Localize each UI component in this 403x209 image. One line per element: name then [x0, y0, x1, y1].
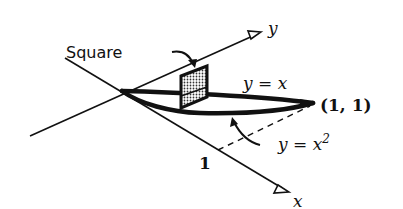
parabola-pointer-arrow [234, 122, 260, 145]
y-axis-label: y [267, 18, 278, 38]
y-axis [30, 31, 261, 136]
x-axis-label: x [293, 191, 303, 209]
tick-one-label: 1 [199, 153, 211, 173]
square-pointer-arrow [172, 52, 193, 64]
parabola-label-base: y = x [277, 134, 323, 154]
line-label: y = x [242, 73, 288, 93]
diagram-canvas: Square y x y = x (1, 1) y = x2 1 [0, 0, 403, 209]
y-axis-arrow-icon [248, 31, 261, 39]
parabola-label-exponent: 2 [321, 132, 330, 146]
square-pointer-arrowhead-icon [188, 59, 197, 68]
point-label: (1, 1) [320, 95, 372, 115]
square-label: Square [66, 43, 122, 62]
square-slab [181, 66, 207, 108]
parabola-label: y = x2 [277, 132, 330, 154]
x-axis-arrow-icon [274, 185, 289, 193]
